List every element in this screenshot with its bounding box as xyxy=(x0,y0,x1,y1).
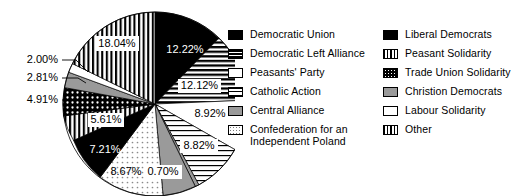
pie-label-peasant-solidarity: 5.61% xyxy=(90,113,121,125)
legend-swatch-confederation-independent-poland-icon xyxy=(228,125,243,135)
pie-callout-trade-union-solidarity: 4.91% xyxy=(27,93,58,105)
legend-label-other: Other xyxy=(405,123,432,135)
legend-swatch-liberal-democrats-icon xyxy=(383,30,398,40)
legend-label-democratic-left-alliance: Democratic Left Alliance xyxy=(250,47,365,59)
pie-label-democratic-left-alliance: 12.12% xyxy=(181,79,219,91)
legend-item-labour-solidarity[interactable]: Labour Solidarity xyxy=(383,104,522,116)
legend-label-liberal-democrats: Liberal Democrats xyxy=(405,28,492,40)
legend-label-central-alliance: Central Alliance xyxy=(250,104,325,116)
pie-label-catholic-action: 8.82% xyxy=(183,139,214,151)
pie-label-peasants-party: 8.92% xyxy=(194,107,225,119)
legend-item-peasants-party[interactable]: Peasants' Party xyxy=(228,66,380,78)
legend-swatch-labour-solidarity-icon xyxy=(383,106,398,116)
chart-root: 12.22% 12.12% 8.92% 8.82% 0.70% 8.67% 7.… xyxy=(0,0,522,196)
legend-swatch-democratic-left-alliance-icon xyxy=(228,49,243,59)
legend-column-left: Democratic Union Democratic Left Allianc… xyxy=(228,28,380,154)
legend-item-liberal-democrats[interactable]: Liberal Democrats xyxy=(383,28,522,40)
legend-column-right: Liberal Democrats Peasant Solidarity Tra… xyxy=(383,28,522,142)
pie-chart-area: 12.22% 12.12% 8.92% 8.82% 0.70% 8.67% 7.… xyxy=(0,0,235,196)
pie-callout-labour-solidarity: 2.00% xyxy=(27,53,58,65)
legend-swatch-democratic-union-icon xyxy=(228,30,243,40)
legend-item-christion-democrats[interactable]: Christion Democrats xyxy=(383,85,522,97)
legend-label-confederation-independent-poland: Confederation for an Independent Poland xyxy=(250,123,380,147)
legend-item-democratic-union[interactable]: Democratic Union xyxy=(228,28,380,40)
pie-callout-christion-democrats: 2.81% xyxy=(27,71,58,83)
legend-swatch-trade-union-solidarity-icon xyxy=(383,68,398,78)
legend-item-central-alliance[interactable]: Central Alliance xyxy=(228,104,380,116)
legend-label-trade-union-solidarity: Trade Union Solidarity xyxy=(405,66,511,78)
pie-label-confederation-independent-poland: 8.67% xyxy=(110,165,141,177)
legend-swatch-peasant-solidarity-icon xyxy=(383,49,398,59)
legend-item-catholic-action[interactable]: Catholic Action xyxy=(228,85,380,97)
legend-swatch-peasants-party-icon xyxy=(228,68,243,78)
legend-item-confederation-independent-poland[interactable]: Confederation for an Independent Poland xyxy=(228,123,380,147)
legend-label-labour-solidarity: Labour Solidarity xyxy=(405,104,486,116)
pie-label-democratic-union: 12.22% xyxy=(166,43,204,55)
legend-label-christion-democrats: Christion Democrats xyxy=(405,85,502,97)
legend-label-democratic-union: Democratic Union xyxy=(250,28,335,40)
legend-label-peasants-party: Peasants' Party xyxy=(250,66,325,78)
legend-item-other[interactable]: Other xyxy=(383,123,522,135)
pie-label-central-alliance: 0.70% xyxy=(147,165,178,177)
pie-chart-svg: 12.22% 12.12% 8.92% 8.82% 0.70% 8.67% 7.… xyxy=(0,0,235,196)
legend-label-peasant-solidarity: Peasant Solidarity xyxy=(405,47,491,59)
pie-label-liberal-democrats: 7.21% xyxy=(89,143,120,155)
legend-swatch-christion-democrats-icon xyxy=(383,87,398,97)
legend-swatch-central-alliance-icon xyxy=(228,106,243,116)
legend-item-peasant-solidarity[interactable]: Peasant Solidarity xyxy=(383,47,522,59)
legend-item-trade-union-solidarity[interactable]: Trade Union Solidarity xyxy=(383,66,522,78)
chart-legend: Democratic Union Democratic Left Allianc… xyxy=(228,28,522,178)
pie-label-other: 18.04% xyxy=(98,37,136,49)
legend-swatch-catholic-action-icon xyxy=(228,87,243,97)
legend-swatch-other-icon xyxy=(383,125,398,135)
legend-label-catholic-action: Catholic Action xyxy=(250,85,321,97)
legend-item-democratic-left-alliance[interactable]: Democratic Left Alliance xyxy=(228,47,380,59)
